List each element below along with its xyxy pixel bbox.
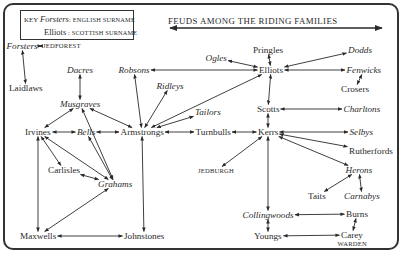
node-selbys: Selbys (350, 127, 373, 137)
node-collingwoods: Collingwoods (243, 210, 294, 220)
legend-key-label: KEY (24, 16, 38, 23)
node-youngs: Youngs (254, 231, 282, 241)
node-dacres: Dacres (67, 65, 93, 75)
feud-edge-robsons-armstrongs (135, 75, 142, 128)
node-warden: WARDEN (338, 239, 367, 249)
feud-edge-pringles-elliots (269, 55, 271, 66)
node-armstrongs: Armstrongs (121, 127, 164, 137)
node-ogles: Ogles (206, 53, 227, 63)
legend-english-label: : ENGLISH SURNAME (69, 16, 135, 23)
node-carlisles: Carlisles (48, 165, 80, 175)
node-musgraves: Musgraves (60, 99, 100, 109)
legend-key: KEY Forsters: ENGLISH SURNAME Elliots : … (20, 10, 134, 40)
feud-edge-ogles-elliots (228, 61, 258, 67)
feud-edge-collingwoods-burns (295, 214, 345, 215)
feud-edge-burns-carey (353, 219, 356, 231)
legend-english-example: Forsters (40, 14, 69, 24)
feud-edge-musgraves-grahams (82, 109, 113, 180)
node-jedburgh: JEDBURGH (198, 166, 234, 176)
legend-scottish-example: Elliots (44, 27, 66, 37)
node-elliots: Elliots (259, 65, 283, 75)
node-forsters: Forsters (7, 41, 38, 51)
node-robsons: Robsons (119, 65, 150, 75)
feud-edge-herons-carnabys (360, 175, 362, 192)
feud-edge-elliots-scotts (268, 75, 270, 105)
feud-edge-herons-taits (324, 175, 351, 192)
feud-edge-elliots-dodds (285, 53, 347, 67)
node-rutherfords: Rutherfords (349, 146, 393, 156)
feud-edge-musgraves-armstrongs (90, 109, 132, 128)
legend-scottish-label: : SCOTTISH SURNAME (68, 29, 137, 36)
feud-edge-carlisles-grahams (80, 175, 98, 180)
feud-edge-forsters-laidlaws (22, 51, 25, 84)
diagram-title: FEUDS AMONG THE RIDING FAMILIES (168, 16, 337, 26)
node-crosers: Crosers (341, 84, 369, 94)
node-jedforest: JEDFOREST (43, 41, 81, 51)
node-burns: Burns (346, 209, 368, 219)
node-turnbulls: Turnbulls (196, 127, 231, 137)
node-dodds: Dodds (348, 45, 372, 55)
node-pringles: Pringles (253, 45, 283, 55)
node-irvines: Irvines (25, 127, 51, 137)
node-bells: Bells (77, 127, 95, 137)
node-fenwicks: Fenwicks (347, 65, 382, 75)
feud-edge-kerrs-jedburgh (222, 137, 262, 167)
legend-row-scottish: Elliots : SCOTTISH SURNAME (24, 26, 130, 39)
node-ridleys: Ridleys (157, 81, 184, 91)
node-scotts: Scotts (257, 104, 279, 114)
feud-edge-kerrs-rutherfords (280, 134, 348, 147)
node-grahams: Grahams (98, 179, 132, 189)
feud-edge-youngs-carey (284, 235, 340, 236)
node-tailors: Tailors (195, 107, 221, 117)
node-charltons: Charltons (344, 104, 381, 114)
feud-edge-armstrongs-johnstones (142, 137, 144, 232)
feud-edge-bells-grahams (89, 137, 113, 180)
feud-edge-fenwicks-crosers (357, 75, 362, 85)
node-kerrs: Kerrs (258, 127, 278, 137)
node-taits: Taits (308, 191, 326, 201)
node-laidlaws: Laidlaws (9, 83, 43, 93)
legend-row-english: KEY Forsters: ENGLISH SURNAME (24, 13, 130, 26)
node-johnstones: Johnstones (124, 231, 164, 241)
feud-edge-musgraves-irvines (45, 109, 74, 128)
node-maxwells: Maxwells (20, 231, 56, 241)
feud-edge-grahams-maxwells (45, 189, 109, 232)
node-herons: Herons (346, 165, 373, 175)
node-carnabys: Carnabys (344, 191, 380, 201)
